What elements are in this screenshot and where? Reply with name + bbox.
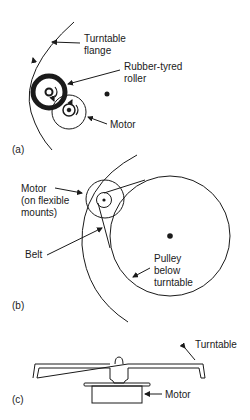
spindle: [115, 357, 123, 364]
pulley-center-dot: [167, 233, 173, 239]
turntable-profile: [33, 364, 205, 383]
motor-body-c: [92, 386, 142, 403]
label-rubber-roller-1: Rubber-tyred: [124, 61, 182, 73]
panel-tag-b: (b): [12, 300, 24, 312]
turntable-drive-diagram: Turntable flange Rubber-tyred roller Mot…: [0, 0, 250, 420]
label-turntable-flange-2: flange: [84, 45, 111, 57]
label-rubber-roller-2: roller: [124, 73, 146, 85]
label-turntable-c: Turntable: [195, 339, 237, 351]
turntable-center-dot-a: [105, 92, 110, 97]
label-pulley-2: below: [154, 265, 180, 277]
label-motor-c: Motor: [165, 389, 191, 401]
rubber-roller: [33, 76, 65, 108]
label-motor-a: Motor: [110, 119, 136, 131]
label-belt: Belt: [25, 249, 42, 261]
label-pulley-3: turntable: [154, 277, 193, 289]
panel-b-graphic: [47, 155, 230, 322]
label-motor-b-3: mounts): [21, 207, 57, 219]
label-turntable-flange-1: Turntable: [84, 33, 126, 45]
panel-tag-a: (a): [12, 144, 24, 156]
label-motor-b-1: Motor: [21, 183, 47, 195]
panel-tag-c: (c): [12, 394, 24, 406]
label-pulley-1: Pulley: [154, 253, 181, 265]
label-motor-b-2: (on flexible: [21, 195, 69, 207]
